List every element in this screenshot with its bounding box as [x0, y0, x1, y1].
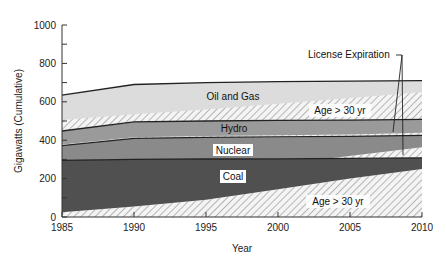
y-tick-label: 800: [39, 58, 56, 69]
x-tick-label: 1995: [195, 222, 218, 233]
x-axis-title: Year: [232, 243, 253, 254]
x-tick-label: 1985: [51, 222, 74, 233]
y-tick-label: 600: [39, 96, 56, 107]
label-nuclear: Nuclear: [216, 145, 251, 156]
label-license-expiration: License Expiration: [308, 49, 390, 60]
x-tick-label: 2000: [267, 222, 290, 233]
y-tick-label: 200: [39, 173, 56, 184]
label-hydro: Hydro: [221, 123, 248, 134]
y-tick-label: 1000: [34, 20, 57, 31]
x-tick-label: 2005: [339, 222, 362, 233]
y-tick-label: 0: [50, 212, 56, 223]
label-age-upper: Age > 30 yr: [314, 105, 366, 116]
x-tick-label: 2010: [411, 222, 434, 233]
label-age-lower: Age > 30 yr: [312, 196, 364, 207]
y-tick-label: 400: [39, 135, 56, 146]
y-axis-title: Gigawatts (Cumulative): [13, 69, 24, 173]
x-tick-label: 1990: [123, 222, 146, 233]
stacked-area-chart: 02004006008001000 1985199019952000200520…: [0, 0, 446, 265]
label-coal: Coal: [223, 171, 244, 182]
label-oil-gas: Oil and Gas: [207, 91, 260, 102]
